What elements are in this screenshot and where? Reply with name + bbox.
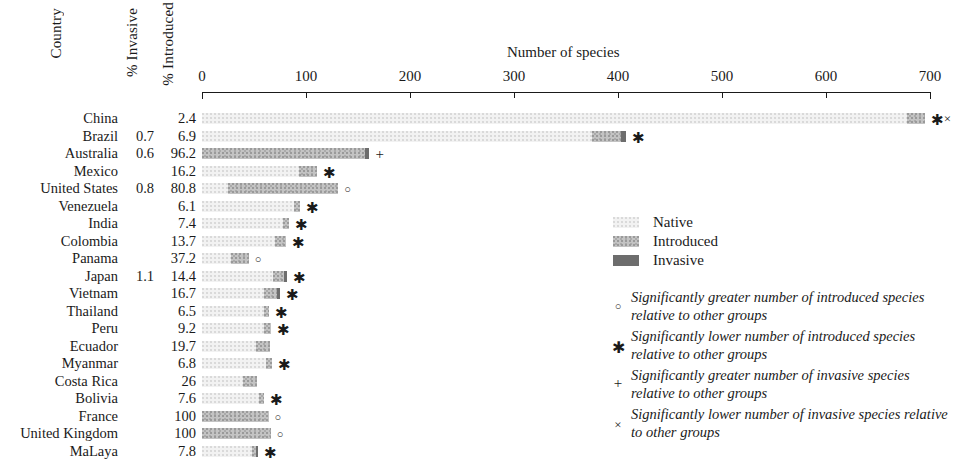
column-header-country: Country [48, 8, 65, 59]
marker-legend-item: +Significantly greater number of invasiv… [607, 366, 955, 402]
row-country-label: Australia [0, 145, 118, 162]
bar-segment-introduced [273, 271, 284, 282]
row-country-label: Ecuador [0, 338, 118, 355]
x-axis-tick-label: 200 [399, 68, 422, 85]
significance-marker: ✱ [293, 268, 306, 285]
x-axis-tick-label: 600 [815, 68, 838, 85]
row-pct-introduced: 16.2 [156, 163, 196, 180]
row-pct-introduced: 37.2 [156, 250, 196, 267]
bar-segment-introduced [294, 201, 300, 212]
legend-swatch [613, 217, 639, 228]
x-axis-tick-label: 700 [919, 68, 942, 85]
x-axis-tick-label: 0 [198, 68, 206, 85]
bar-segment-native [202, 131, 592, 142]
bar-segment-native [202, 306, 264, 317]
bar-segment-introduced [243, 376, 258, 387]
row-pct-introduced: 26 [156, 373, 196, 390]
marker-legend-symbol: + [607, 366, 629, 400]
chart-row: MaLaya7.8✱ [0, 443, 955, 460]
row-pct-introduced: 6.8 [156, 355, 196, 372]
legend-swatch [613, 255, 639, 266]
row-country-label: Myanmar [0, 355, 118, 372]
bar-segment-invasive [621, 131, 626, 142]
x-axis-tick [722, 92, 723, 98]
row-pct-introduced: 100 [156, 425, 196, 442]
bar-segment-introduced [264, 323, 270, 334]
row-pct-introduced: 13.7 [156, 233, 196, 250]
marker-legend-text: Significantly greater number of introduc… [631, 288, 955, 324]
bar-segment-introduced [202, 411, 269, 422]
significance-marker: ○ [255, 250, 262, 267]
bar-segment-native [202, 166, 299, 177]
significance-marker: ✱ [275, 303, 288, 320]
bar-segment-introduced [256, 341, 270, 352]
bar-segment-introduced [259, 393, 264, 404]
bar-segment-introduced [592, 131, 621, 142]
bar-segment-introduced [231, 253, 249, 264]
bar-segment-native [202, 271, 273, 282]
chart-row: Panama37.2○ [0, 250, 955, 267]
marker-legend-item: ○Significantly greater number of introdu… [607, 288, 955, 324]
row-pct-introduced: 7.4 [156, 215, 196, 232]
bar-segment-introduced [264, 288, 276, 299]
row-pct-introduced: 7.6 [156, 390, 196, 407]
bar-segment-native [202, 393, 259, 404]
column-header-pct-introduced: % Introduced [160, 2, 177, 86]
bar-segment-native [202, 446, 252, 457]
row-pct-introduced: 2.4 [156, 110, 196, 127]
bar-segment-native [202, 376, 243, 387]
row-country-label: United Kingdom [0, 425, 118, 442]
row-pct-introduced: 7.8 [156, 443, 196, 460]
chart-row: China2.4✱× [0, 110, 955, 127]
row-pct-invasive: 0.8 [122, 180, 154, 197]
bar-segment-native [202, 113, 907, 124]
significance-marker: ○ [275, 408, 282, 425]
row-country-label: India [0, 215, 118, 232]
bar-segment-native [202, 288, 264, 299]
row-country-label: Brazil [0, 128, 118, 145]
significance-marker: ✱ [292, 233, 305, 250]
bar-segment-native [202, 201, 294, 212]
bar-segment-invasive [365, 148, 369, 159]
row-country-label: Japan [0, 268, 118, 285]
chart-row: Brazil0.76.9✱ [0, 128, 955, 145]
row-country-label: Bolivia [0, 390, 118, 407]
bar-segment-native [202, 341, 256, 352]
x-axis-tick [202, 92, 203, 99]
row-pct-invasive: 0.7 [122, 128, 154, 145]
significance-marker: ✱ [286, 285, 299, 302]
bar-segment-native [202, 183, 228, 194]
significance-marker: ○ [277, 425, 284, 442]
row-pct-introduced: 6.5 [156, 303, 196, 320]
legend-label: Invasive [653, 251, 704, 270]
row-country-label: Peru [0, 320, 118, 337]
row-country-label: France [0, 408, 118, 425]
x-axis-tick [618, 92, 619, 98]
marker-legend-text: Significantly greater number of invasive… [631, 366, 955, 402]
x-axis-tick-label: 500 [711, 68, 734, 85]
marker-legend-text: Significantly lower number of introduced… [631, 327, 955, 363]
row-country-label: Colombia [0, 233, 118, 250]
row-pct-introduced: 19.7 [156, 338, 196, 355]
x-axis-tick [514, 92, 515, 98]
significance-marker: ○ [344, 180, 351, 197]
legend-label: Native [653, 213, 693, 232]
marker-legend-text: Significantly lower number of invasive s… [631, 405, 955, 441]
chart-row: Mexico16.2✱ [0, 163, 955, 180]
bar-segment-introduced [299, 166, 318, 177]
chart-row: Japan1.114.4✱ [0, 268, 955, 285]
significance-marker: ✱ [278, 355, 291, 372]
marker-legend-symbol: ○ [607, 288, 629, 324]
bar-segment-native [202, 218, 283, 229]
significance-marker: + [375, 145, 383, 162]
row-pct-introduced: 14.4 [156, 268, 196, 285]
bar-segment-introduced [266, 358, 271, 369]
axis-title: Number of species [507, 44, 619, 61]
row-country-label: Venezuela [0, 198, 118, 215]
bar-segment-introduced [228, 183, 338, 194]
row-country-label: Mexico [0, 163, 118, 180]
bar-segment-invasive [277, 288, 280, 299]
legend-label: Introduced [653, 232, 718, 251]
row-pct-invasive: 1.1 [122, 268, 154, 285]
significance-marker: ✱ [931, 110, 944, 127]
